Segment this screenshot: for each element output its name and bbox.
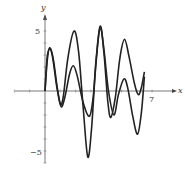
x-axis-arrow-icon: [172, 89, 177, 93]
y-tick-label-neg5: −5: [30, 148, 42, 157]
chart: x y 7 5 −5: [0, 0, 185, 169]
x-tick-label-7: 7: [149, 95, 154, 104]
x-axis-label: x: [178, 86, 183, 95]
y-tick-label-5: 5: [35, 27, 40, 36]
curve-2: [45, 26, 144, 134]
y-axis-label: y: [40, 3, 46, 12]
curve-1: [45, 27, 144, 157]
